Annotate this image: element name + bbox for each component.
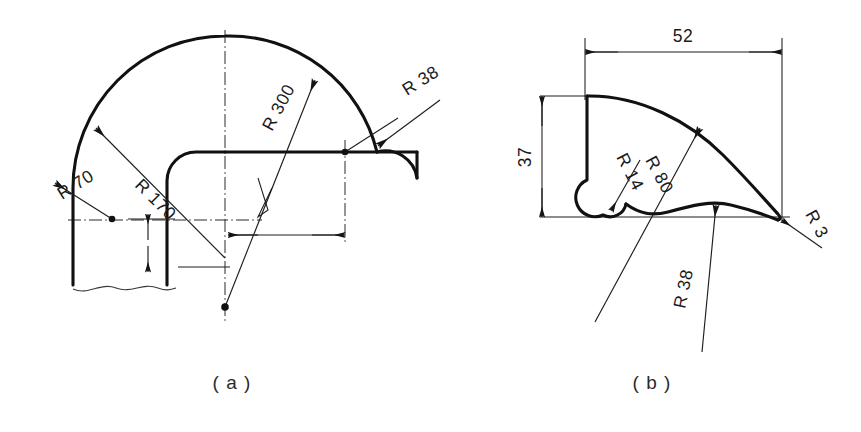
r300-leader-jog: [258, 178, 272, 217]
dimension-r14-b: R 14: [611, 150, 648, 211]
nose-arc-a: [377, 151, 417, 178]
r80-label: R 80: [641, 152, 677, 196]
sub-figure-b: 52 37: [515, 26, 833, 393]
caption-a: ( a ): [213, 372, 252, 393]
sub-figure-a: R 70 R 170 R 300 R 38: [54, 30, 443, 393]
r38a-radius-line: [345, 118, 398, 152]
r14-label: R 14: [612, 150, 648, 194]
r38b-leader-line: [702, 205, 716, 352]
dimension-r70-a: R 70: [54, 166, 116, 223]
r300-center-dot: [221, 303, 229, 311]
r300-label: R 300: [258, 81, 299, 134]
dimension-r38-a: R 38: [342, 62, 443, 156]
part-outline-a: [73, 36, 417, 285]
technical-drawing-figure: R 70 R 170 R 300 R 38: [0, 0, 861, 432]
r70-label: R 70: [54, 166, 98, 204]
label-52-b: 52: [673, 26, 694, 46]
r70-center-dot: [109, 216, 116, 223]
dimension-r38-b: R 38: [669, 205, 716, 352]
label-37-b: 37: [515, 147, 535, 168]
part-outline-b: [576, 96, 780, 220]
dimension-r170-a: R 170: [96, 128, 225, 258]
dimension-r3-b: R 3: [782, 206, 833, 248]
r38a-label: R 38: [399, 62, 443, 100]
r170-label: R 170: [131, 175, 180, 224]
r38b-label: R 38: [669, 267, 697, 310]
inner-fillet-a: [167, 152, 225, 285]
offset-dimension-a: [128, 214, 230, 272]
top-curve-b: [587, 96, 777, 213]
caption-b: ( b ): [633, 372, 672, 393]
drawing-canvas: R 70 R 170 R 300 R 38: [0, 0, 861, 432]
centerlines-a: [68, 30, 398, 322]
r38a-center-dot: [342, 149, 349, 156]
break-line-a: [73, 286, 176, 291]
r38a-leader-line: [378, 100, 440, 146]
dimension-r300-a: R 300: [221, 80, 315, 311]
